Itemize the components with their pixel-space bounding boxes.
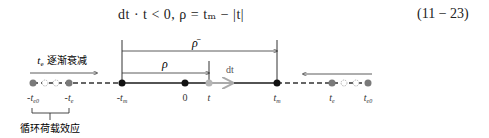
rho-label: ρ xyxy=(161,57,168,71)
label-t: t xyxy=(208,92,211,103)
cyclic-effect-label: 循环荷载效应 xyxy=(20,122,80,134)
label-neg-tm: -tm xyxy=(117,92,128,104)
point-neg-tm xyxy=(119,80,126,87)
dt-label: dt xyxy=(226,64,234,75)
ghost-point xyxy=(353,80,359,86)
label-neg-te0: -te0 xyxy=(27,92,39,104)
ghost-point xyxy=(42,80,48,86)
point-neg-te xyxy=(66,80,73,87)
stress-axis-diagram: ρ̄ ρ dt te 逐渐衰减 -te0 -te -tm 0 t tm te t… xyxy=(0,0,489,138)
label-zero: 0 xyxy=(183,92,188,103)
point-te0 xyxy=(365,80,372,87)
label-te: te xyxy=(329,92,335,104)
rho-bar-label: ρ̄ xyxy=(191,36,201,50)
ghost-point xyxy=(53,80,59,86)
point-tm xyxy=(274,80,281,87)
cyclic-brace xyxy=(32,108,69,120)
label-te0: te0 xyxy=(364,92,372,104)
point-neg-te0 xyxy=(30,80,37,87)
point-zero xyxy=(182,80,189,87)
point-t xyxy=(206,80,213,87)
label-tm: tm xyxy=(273,92,281,104)
point-te xyxy=(329,80,336,87)
decay-label: te 逐渐衰减 xyxy=(37,54,86,68)
label-neg-te: -te xyxy=(65,92,74,104)
ghost-point xyxy=(341,80,347,86)
